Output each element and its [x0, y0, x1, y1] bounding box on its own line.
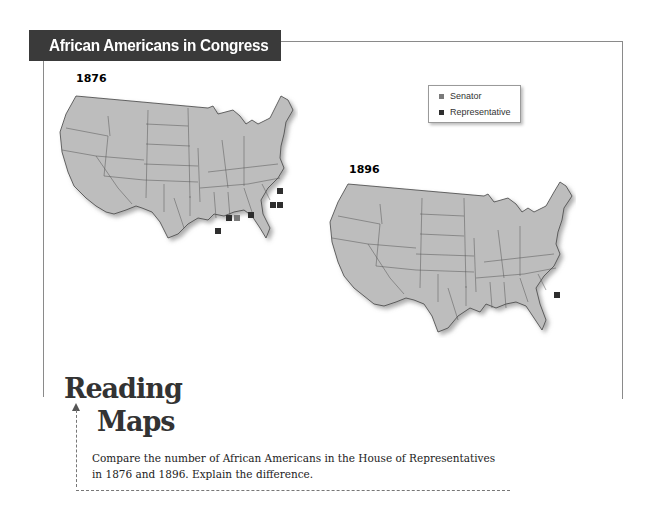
- map-legend: Senator Representative: [428, 85, 521, 123]
- senator-marker-ms: [234, 215, 240, 221]
- year-label-1876: 1876: [76, 72, 107, 85]
- year-label-1896: 1896: [349, 163, 380, 176]
- representative-marker-al: [248, 212, 254, 218]
- representative-marker-sc: [270, 202, 276, 208]
- map-title: African Americans in Congress: [49, 36, 268, 56]
- representative-marker-la: [215, 228, 221, 234]
- representative-marker-sc: [554, 292, 560, 298]
- markers-1896: [554, 292, 560, 298]
- senator-swatch-icon: [439, 94, 444, 99]
- map-title-bar: African Americans in Congress: [29, 30, 281, 61]
- frame-right-line: [622, 41, 623, 399]
- us-outline: [330, 182, 572, 332]
- us-map-1896: [318, 180, 576, 338]
- representative-marker-sc: [277, 202, 283, 208]
- representative-marker-ms: [226, 215, 232, 221]
- dashed-guide-horizontal: [76, 490, 510, 491]
- legend-label-senator: Senator: [450, 91, 482, 101]
- question-line-1: Compare the number of African Americans …: [92, 450, 495, 466]
- frame-left-line: [43, 60, 44, 397]
- legend-item-senator: Senator: [429, 88, 520, 104]
- us-map-1876: [48, 88, 298, 246]
- representative-marker-nc: [277, 188, 283, 194]
- representative-swatch-icon: [439, 110, 444, 115]
- dashed-guide-vertical: [76, 410, 77, 487]
- us-outline: [60, 96, 293, 238]
- reading-maps-heading-line2: Maps: [97, 406, 174, 437]
- question-line-2: in 1876 and 1896. Explain the difference…: [92, 466, 495, 482]
- reading-maps-heading-line1: Reading: [64, 373, 182, 404]
- legend-item-representative: Representative: [429, 104, 520, 120]
- frame-top-line: [280, 41, 623, 42]
- reading-maps-question: Compare the number of African Americans …: [92, 450, 495, 482]
- legend-label-representative: Representative: [450, 107, 511, 117]
